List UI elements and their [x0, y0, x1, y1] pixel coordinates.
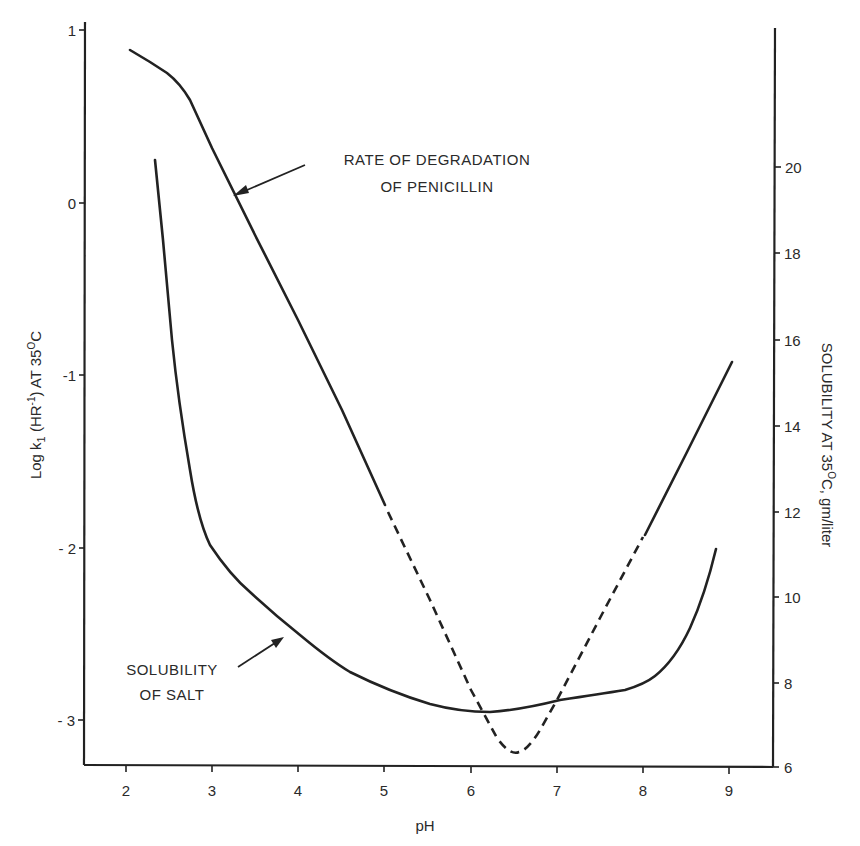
x-tick-label: 5: [380, 782, 388, 799]
y-right-tick-label: 12: [784, 504, 801, 521]
x-tick-label: 7: [553, 782, 561, 799]
y-right-tick-label: 10: [784, 589, 801, 606]
degradation-curve-dashed: [388, 512, 643, 753]
y-left-tick-label: 1: [68, 22, 76, 39]
degradation-curve-solid-left: [130, 50, 385, 505]
bottom-axis-line: [84, 765, 773, 767]
x-axis-title: pH: [415, 817, 434, 834]
y-left-tick-label: - 2: [58, 540, 76, 557]
degradation-curve-solid-right: [645, 362, 732, 535]
y-left-tick-label: 0: [68, 195, 76, 212]
annotation-degradation-line2: OF PENICILLIN: [380, 178, 493, 195]
chart-canvas: 2 3 4 5 6 7 8 9 pH 1 0 -1 - 2 - 3 Log k1…: [0, 0, 860, 846]
axes: [84, 22, 775, 767]
y-right-tick-label: 14: [784, 418, 801, 435]
annotation-solubility-line2: OF SALT: [140, 686, 205, 703]
annotation-degradation: RATE OF DEGRADATION OF PENICILLIN: [233, 151, 530, 196]
x-tick-label: 6: [467, 782, 475, 799]
annotation-solubility: SOLUBILITY OF SALT: [126, 637, 284, 703]
x-tick-label: 4: [294, 782, 302, 799]
left-axis-ticks: 1 0 -1 - 2 - 3: [57, 22, 85, 729]
y-right-tick-label: 20: [785, 159, 802, 176]
x-tick-label: 8: [639, 782, 647, 799]
x-tick-label: 2: [122, 782, 130, 799]
annotation-degradation-line1: RATE OF DEGRADATION: [344, 151, 530, 168]
annotation-solubility-line1: SOLUBILITY: [126, 661, 218, 678]
left-axis-line: [84, 22, 85, 765]
y-right-tick-label: 18: [784, 245, 801, 262]
y-right-tick-label: 8: [784, 675, 792, 692]
x-axis-ticks: 2 3 4 5 6 7 8 9: [122, 765, 733, 799]
right-axis-ticks: 6 8 10 12 14 16 18 20: [773, 159, 802, 776]
x-tick-label: 3: [208, 782, 216, 799]
solubility-curve: [155, 160, 716, 712]
y-left-axis-title: Log k1 (HR-1) AT 35OC: [26, 331, 47, 479]
y-left-tick-label: -1: [63, 367, 76, 384]
y-right-tick-label: 16: [784, 332, 801, 349]
arrowhead-icon: [271, 637, 284, 648]
y-left-tick-label: - 3: [57, 712, 75, 729]
y-right-tick-label: 6: [784, 759, 792, 776]
right-axis-line: [773, 28, 775, 767]
y-right-axis-title: SOLUBILITY AT 35OC, gm/liter: [819, 343, 837, 548]
x-tick-label: 9: [725, 782, 733, 799]
arrowhead-icon: [233, 185, 249, 196]
